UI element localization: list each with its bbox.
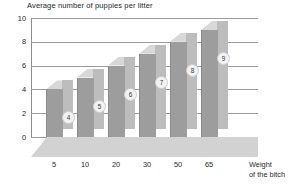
bar-side-face	[217, 21, 228, 129]
x-axis-tick-label: 5	[41, 160, 67, 169]
bar-value-label: 7	[155, 76, 168, 89]
bar-value-label: 5	[93, 100, 106, 113]
bar-side-face	[186, 33, 197, 129]
bar-front-face	[46, 89, 63, 137]
x-axis-tick-label: 50	[165, 160, 191, 169]
bar-value-label: 4	[62, 111, 75, 124]
bar-front-face	[139, 54, 156, 137]
bar-front-face	[77, 78, 94, 138]
x-axis-title-line-2: of the bitch	[249, 170, 285, 180]
x-axis-title-line-1: Weight	[249, 160, 285, 170]
bar-side-face	[93, 69, 104, 130]
bar-front-face	[201, 30, 218, 137]
bar-value-label: 9	[217, 52, 230, 65]
bar	[139, 45, 166, 137]
x-axis-tick-label: 30	[134, 160, 160, 169]
bar-chart: Average number of puppies per litter 108…	[0, 0, 292, 189]
bar-value-label: 8	[186, 64, 199, 77]
bar	[46, 80, 73, 137]
x-axis-tick-label: 65	[196, 160, 222, 169]
bar	[201, 21, 228, 137]
x-axis-tick-label: 10	[72, 160, 98, 169]
bar-value-label: 6	[124, 88, 137, 101]
bar	[170, 33, 197, 137]
x-axis-title: Weight of the bitch	[249, 160, 285, 179]
bar-front-face	[108, 66, 125, 137]
bar-front-face	[170, 42, 187, 137]
x-axis-tick-label: 20	[103, 160, 129, 169]
